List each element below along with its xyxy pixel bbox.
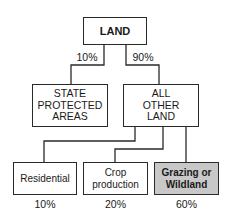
node-grazing-label: Grazing or Wildland xyxy=(161,167,211,189)
residential-share: 10% xyxy=(13,198,77,210)
node-residential-label: Residential xyxy=(20,173,69,184)
node-residential: Residential xyxy=(13,162,77,195)
node-crop-label: Crop production xyxy=(92,167,139,189)
node-state-protected-areas: STATE PROTECTED AREAS xyxy=(32,84,108,127)
node-grazing-wildland: Grazing or Wildland xyxy=(154,162,219,195)
node-all-other-label: ALL OTHER LAND xyxy=(143,88,180,123)
root-node-label: LAND xyxy=(100,25,131,37)
state-protected-share: 10% xyxy=(72,51,102,63)
node-all-other-land: ALL OTHER LAND xyxy=(123,84,199,127)
all-other-land-share: 90% xyxy=(128,51,158,63)
crop-production-share: 20% xyxy=(83,198,148,210)
root-node-land: LAND xyxy=(83,17,147,45)
node-crop-production: Crop production xyxy=(83,162,148,195)
grazing-wildland-share: 60% xyxy=(154,198,219,210)
node-state-protected-label: STATE PROTECTED AREAS xyxy=(38,88,103,123)
